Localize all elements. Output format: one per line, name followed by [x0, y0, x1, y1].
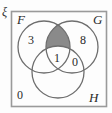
count-outside-all-sets: 0: [17, 88, 23, 102]
count-g-only: 8: [80, 33, 86, 47]
count-g-intersect-h-only: 0: [72, 55, 78, 69]
count-f-intersect-g-intersect-h: 1: [54, 51, 60, 65]
universal-set-symbol: ξ: [2, 5, 8, 19]
count-f-only: 3: [28, 33, 34, 47]
venn-diagram-svg: ξ F G H 3 8 1 0 0: [0, 0, 112, 113]
venn-diagram-figure: ξ F G H 3 8 1 0 0: [0, 0, 112, 113]
set-label-h: H: [88, 90, 99, 105]
set-label-g: G: [93, 12, 103, 27]
set-label-f: F: [16, 12, 26, 27]
